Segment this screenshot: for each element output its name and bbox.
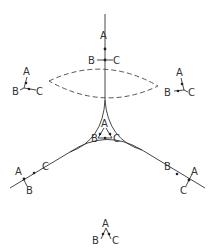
bottom-configuration: A B C	[92, 218, 119, 246]
lower-right-junction-dot	[188, 179, 191, 182]
lower-left-label-a: A	[15, 166, 22, 177]
upper-left-label-c: C	[36, 86, 43, 97]
center-dot-bc	[104, 137, 107, 140]
upper-right-dot-a	[181, 83, 184, 86]
bottom-dot-b	[102, 233, 105, 236]
upper-right-dot-b	[177, 90, 180, 93]
lower-right-configuration: B A C	[164, 161, 198, 196]
bottom-label-c: C	[112, 235, 119, 246]
lower-left-label-b: B	[26, 185, 33, 196]
center-arm-ac	[106, 128, 112, 138]
upper-right-label-b: B	[164, 87, 171, 98]
upper-left-arm-b	[20, 88, 24, 90]
center-configuration: A B C	[91, 118, 120, 144]
upper-right-configuration: A B C	[164, 67, 195, 98]
diagram-canvas: A B C A B C A B C A B C	[0, 0, 214, 249]
center-label-c: C	[113, 133, 120, 144]
top-junction-dot	[104, 59, 107, 62]
upper-right-label-c: C	[188, 87, 195, 98]
bottom-dot-c	[108, 233, 111, 236]
lower-left-dot	[33, 172, 36, 175]
center-dot-ab	[99, 133, 102, 136]
lower-left-configuration: A B C	[15, 161, 49, 196]
center-dot-ac	[109, 133, 112, 136]
top-configuration: A B C	[88, 30, 120, 66]
center-label-b: B	[91, 133, 98, 144]
lower-left-label-c: C	[42, 161, 49, 172]
bottom-label-a: A	[102, 218, 109, 229]
upper-right-label-a: A	[176, 67, 183, 78]
top-label-b: B	[88, 55, 95, 66]
upper-left-configuration: A B C	[12, 66, 43, 97]
top-label-c: C	[113, 55, 120, 66]
lower-right-label-a: A	[191, 166, 198, 177]
lower-right-dot	[176, 173, 179, 176]
lower-right-label-c: C	[180, 185, 187, 196]
lower-right-label-b: B	[164, 161, 171, 172]
bottom-label-b: B	[92, 235, 99, 246]
top-dot	[104, 48, 107, 51]
lower-left-junction-dot	[23, 178, 26, 181]
upper-left-dot-a	[25, 82, 28, 85]
center-arm-ab	[98, 128, 104, 138]
top-label-a: A	[100, 30, 107, 41]
dashed-lens-region	[49, 69, 158, 98]
center-label-a: A	[101, 118, 108, 129]
upper-left-label-b: B	[12, 86, 19, 97]
upper-left-label-a: A	[23, 66, 30, 77]
upper-left-dot-c	[28, 88, 31, 91]
